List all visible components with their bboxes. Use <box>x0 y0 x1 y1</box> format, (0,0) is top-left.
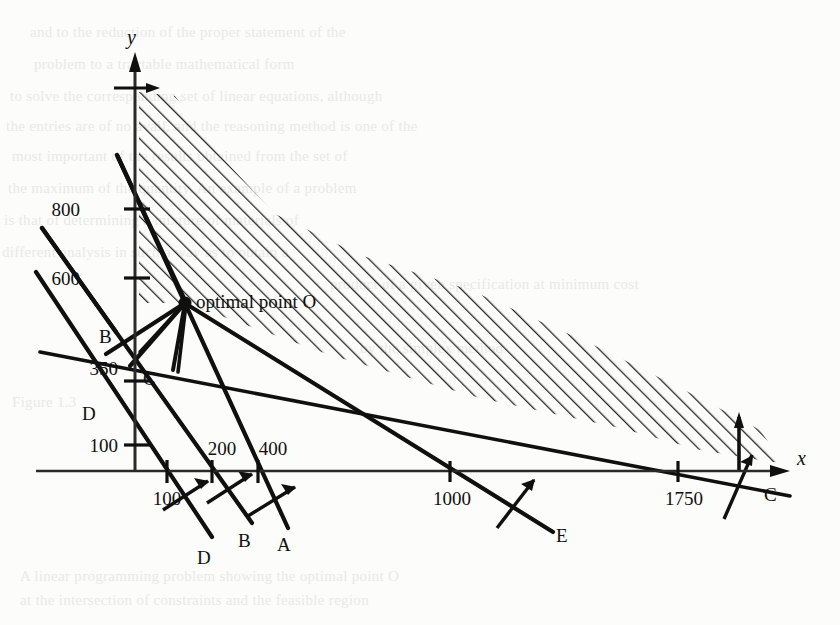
y-tick-label-600: 600 <box>52 268 81 289</box>
feasible-region <box>139 92 782 462</box>
y-axis-arrowhead <box>129 52 141 72</box>
x-axis-label: x <box>796 447 806 469</box>
label-line-c-left: C <box>143 368 156 389</box>
linear-programming-figure: A B B D D C C E <box>0 0 840 625</box>
x-axis-arrowhead <box>770 465 790 477</box>
y-tick-label-100: 100 <box>90 435 119 456</box>
label-line-b-upper: B <box>99 326 112 347</box>
optimal-point-marker <box>179 297 192 310</box>
x-tick-label-100: 100 <box>153 488 182 509</box>
optimal-point-label: optimal point O <box>196 291 316 312</box>
y-tick-label-350: 350 <box>90 358 119 379</box>
x-tick-label-200: 200 <box>208 438 237 459</box>
graph-canvas: A B B D D C C E <box>0 0 840 625</box>
label-line-d-upper: D <box>82 403 96 424</box>
y-tick-label-800: 800 <box>52 199 81 220</box>
label-line-d-lower: D <box>197 547 211 568</box>
y-axis-direction-arrow <box>114 83 160 93</box>
x-tick-label-400: 400 <box>259 438 288 459</box>
x-tick-label-1750: 1750 <box>665 488 703 509</box>
label-line-b-lower: B <box>238 530 251 551</box>
label-line-c-right: C <box>764 484 777 505</box>
label-line-a: A <box>277 534 291 555</box>
x-tick-label-1000: 1000 <box>433 488 471 509</box>
y-axis-label: y <box>125 26 136 49</box>
label-line-e: E <box>556 525 568 546</box>
